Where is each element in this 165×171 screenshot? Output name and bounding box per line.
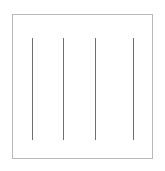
figure-canvas: [0, 0, 165, 171]
rectangular-border-frame: [12, 14, 153, 159]
